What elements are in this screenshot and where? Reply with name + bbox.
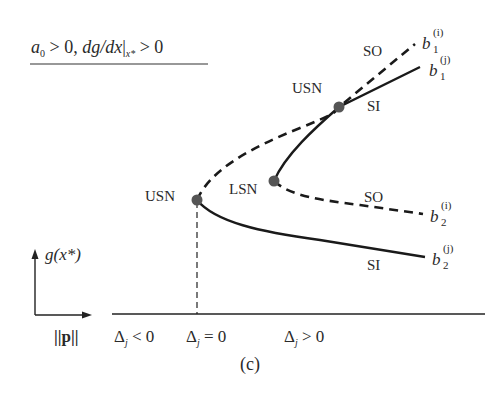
b1-j-label: b(j)1 (429, 62, 438, 79)
branch-so-upper (197, 44, 415, 200)
b2j-base: b (432, 250, 441, 269)
b2i-sup: (i) (441, 200, 451, 211)
x-arrowhead-icon (82, 312, 92, 319)
y-arrowhead-icon (32, 249, 39, 259)
y-axis-label: g(x*) (45, 246, 81, 263)
lsn-label: LSN (229, 182, 257, 197)
cond-rest1: > 0, (45, 37, 82, 57)
so-lower-label: SO (364, 190, 383, 205)
delta-rel: < 0 (128, 327, 155, 346)
b1j-base: b (429, 61, 438, 80)
cond-rest2: > 0 (135, 37, 163, 57)
x-axis-label: ||p|| (54, 328, 78, 345)
delta-rel: > 0 (298, 327, 325, 346)
b1i-sup: (i) (433, 27, 443, 38)
si-lower-label: SI (367, 258, 380, 273)
delta-glyph: Δ (284, 327, 295, 346)
b1-i-label: b(i)1 (422, 35, 431, 52)
si-upper-label: SI (367, 99, 380, 114)
b1i-sub: 1 (433, 44, 439, 55)
region-positive: Δj > 0 (284, 328, 324, 348)
b1i-base: b (422, 34, 431, 53)
b2i-sub: 2 (441, 217, 447, 228)
panel-label: (c) (240, 355, 260, 373)
b2j-sup: (j) (443, 243, 453, 254)
delta-rel: = 0 (200, 327, 227, 346)
cond-x-sub: x* (126, 48, 135, 59)
lsn-point (269, 176, 280, 187)
b1j-sup: (j) (440, 54, 450, 65)
usn-upper-point (334, 102, 345, 113)
b2i-base: b (430, 207, 439, 226)
b1j-sub: 1 (440, 71, 446, 82)
delta-glyph: Δ (186, 327, 197, 346)
usn-lower-label: USN (145, 189, 175, 204)
usn-lower-point (192, 195, 203, 206)
region-zero: Δj = 0 (186, 328, 226, 348)
so-upper-label: SO (363, 44, 382, 59)
b2-j-label: b(j)2 (432, 251, 441, 268)
usn-upper-label: USN (292, 81, 322, 96)
delta-glyph: Δ (114, 327, 125, 346)
branch-so-lower (274, 181, 423, 214)
b2j-sub: 2 (443, 260, 449, 271)
cond-a: a (31, 37, 40, 57)
condition-label: a0 > 0, dg/dx|x* > 0 (31, 38, 163, 59)
b2-i-label: b(i)2 (430, 208, 439, 225)
region-negative: Δj < 0 (114, 328, 154, 348)
cond-dg: dg/dx (82, 37, 122, 57)
